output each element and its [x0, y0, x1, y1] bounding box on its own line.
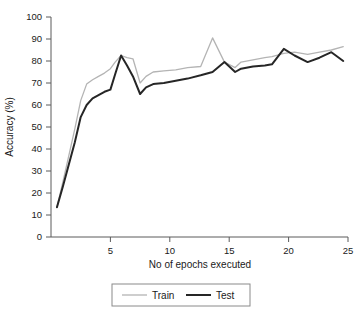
y-tick-label: 60	[31, 99, 42, 110]
y-tick-label: 100	[26, 11, 42, 22]
y-tick-label: 70	[31, 77, 42, 88]
x-tick-label: 20	[283, 245, 294, 256]
chart-legend: Train Test	[112, 284, 250, 306]
y-tick-label: 10	[31, 209, 42, 220]
y-tick-label: 80	[31, 55, 42, 66]
legend-label-train: Train	[152, 290, 174, 301]
x-tick-label: 15	[224, 245, 235, 256]
series-line-train	[57, 38, 343, 207]
y-axis-title: Accuracy (%)	[4, 97, 15, 156]
y-axis-tick-marks	[46, 17, 51, 237]
y-tick-label: 90	[31, 33, 42, 44]
y-axis-tick-labels: 0102030405060708090100	[26, 11, 42, 242]
x-axis-tick-marks	[110, 237, 348, 242]
data-series-group	[57, 38, 343, 207]
series-line-test	[57, 49, 343, 207]
y-tick-label: 40	[31, 143, 42, 154]
x-tick-label: 5	[108, 245, 113, 256]
x-tick-label: 10	[165, 245, 176, 256]
legend-label-test: Test	[216, 290, 235, 301]
x-axis-tick-labels: 510152025	[108, 245, 354, 256]
y-tick-label: 30	[31, 165, 42, 176]
chart-figure: 0102030405060708090100 510152025 No of e…	[0, 0, 362, 314]
x-axis-title: No of epochs executed	[149, 259, 251, 270]
y-tick-label: 0	[37, 231, 42, 242]
accuracy-vs-epochs-line-chart: 0102030405060708090100 510152025 No of e…	[0, 0, 362, 314]
y-tick-label: 50	[31, 121, 42, 132]
y-tick-label: 20	[31, 187, 42, 198]
x-tick-label: 25	[343, 245, 354, 256]
